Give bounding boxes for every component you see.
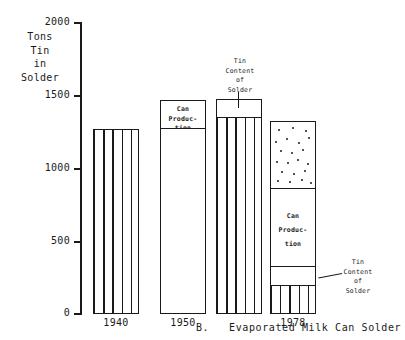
bar-1978-can-production-label: Can Produc- tion [271,189,315,251]
bar-1950-segment-can-production: Can Produc- tion [161,101,205,128]
y-tick-label-1500: 1500 [8,90,70,100]
bar-1978-segment-tin [271,285,315,313]
y-tick-label-500: 500 [8,236,70,246]
y-tick-0 [74,313,82,315]
stipple-pattern [271,122,315,188]
y-axis-title: Tons Tin in Solder [6,30,74,84]
bar-middle-segment-body [217,117,261,313]
bar-1950-segment-body [161,128,205,313]
bar-1978-segment-can-production: Can Produc- tion [271,188,315,266]
y-tick-500 [74,241,82,243]
callout-leader-top [238,92,239,108]
y-tick-1000 [74,168,82,170]
y-tick-2000 [74,22,82,24]
bar-1940-segment-tin [94,130,138,313]
bar-1940 [93,129,139,314]
bar-middle [216,99,262,314]
x-label-1940: 1940 [86,317,146,328]
bar-1978-segment-stipple [271,122,315,188]
y-tick-1500 [74,95,82,97]
bar-1978: Can Produc- tion [270,121,316,314]
y-tick-label-1000: 1000 [8,163,70,173]
chart-canvas: Tons Tin in Solder 2000 1500 1000 500 0 … [0,0,405,340]
bar-1978-segment-band [271,266,315,285]
bar-1950: Can Produc- tion [160,100,206,314]
callout-tin-content-top: Tin Content of Solder [212,57,268,95]
y-tick-label-0: 0 [8,308,70,318]
chart-caption: B. Evaporated Milk Can Solder [196,322,401,334]
callout-tin-content-bottom: Tin Content of Solder [330,258,386,296]
y-tick-label-2000: 2000 [8,17,70,27]
